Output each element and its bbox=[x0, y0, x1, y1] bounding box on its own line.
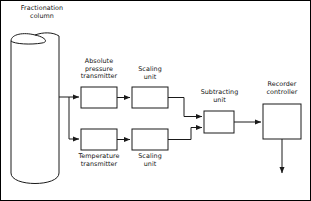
label-fractionation-column: Fractionation column bbox=[3, 5, 81, 20]
diagram-canvas bbox=[1, 1, 311, 201]
label-scaling-unit-top: Scaling unit bbox=[129, 66, 171, 81]
box-temperature-transmitter bbox=[81, 129, 117, 150]
label-absolute-pressure-transmitter: Absolute pressure transmitter bbox=[71, 58, 127, 81]
fractionation-column-vessel bbox=[11, 33, 59, 184]
label-temperature-transmitter: Temperature transmitter bbox=[69, 153, 129, 168]
label-subtracting-unit: Subtracting unit bbox=[191, 89, 248, 104]
box-scaling-unit-top bbox=[132, 87, 168, 108]
edge-scaling-bottom-to-subtracting bbox=[168, 128, 202, 140]
box-scaling-unit-bottom bbox=[132, 129, 168, 150]
box-absolute-pressure-transmitter bbox=[81, 87, 117, 108]
diagram-figure: Fractionation column Absolute pressure t… bbox=[0, 0, 311, 201]
label-scaling-unit-bottom: Scaling unit bbox=[129, 153, 171, 168]
box-subtracting-unit bbox=[204, 111, 234, 133]
column-tap-trunk bbox=[59, 97, 69, 139]
label-recorder-controller: Recorder controller bbox=[257, 81, 307, 96]
box-recorder-controller bbox=[263, 104, 301, 139]
